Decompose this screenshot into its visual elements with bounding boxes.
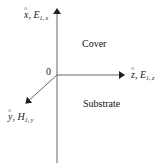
substrate-region-label: Substrate [83,98,120,109]
cover-region-label: Cover [82,38,106,49]
axes-graphic [0,0,164,167]
y-axis-label: y, H1, y [8,112,33,125]
x-unit-vector: x [24,10,28,20]
y-axis-line [26,75,57,103]
z-axis-label: z, E1, z [131,70,154,83]
z-field-subscript: 1, z [146,75,154,81]
origin-label: 0 [46,67,51,77]
y-field-symbol: H [17,111,24,122]
z-unit-vector: z [131,70,135,80]
y-unit-vector: y [8,112,12,122]
x-field-subscript: 1, x [40,15,49,21]
y-field-subscript: 1, y [25,117,34,123]
x-axis-label: x, E1, x [24,10,48,23]
